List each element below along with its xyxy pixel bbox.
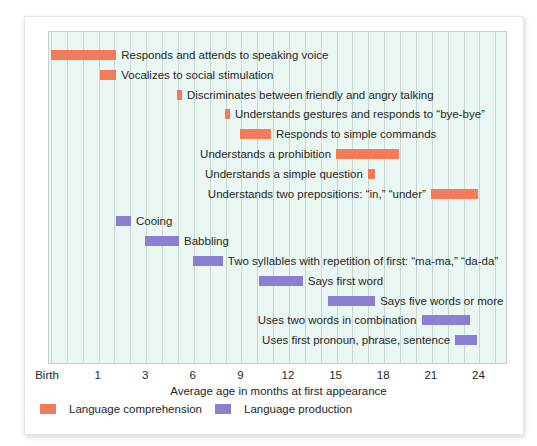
gridline <box>114 32 115 363</box>
bar-label: Understands a prohibition <box>200 148 331 160</box>
gridline <box>51 32 52 363</box>
comprehension-bar <box>336 149 399 159</box>
gridline <box>83 32 84 363</box>
x-tick-label: 3 <box>142 369 148 382</box>
production-bar <box>455 335 477 345</box>
legend-label-comprehension: Language comprehension <box>69 403 202 415</box>
production-bar <box>328 296 375 306</box>
comprehension-bar <box>368 169 375 179</box>
bar-label: Vocalizes to social stimulation <box>121 69 273 81</box>
gridline <box>99 32 100 363</box>
gridline <box>194 32 195 363</box>
production-bar <box>145 236 179 246</box>
x-tick-label: 9 <box>237 369 243 382</box>
x-tick-label: 12 <box>282 369 295 382</box>
bar-label: Says first word <box>308 275 383 287</box>
comprehension-bar <box>225 109 230 119</box>
plot-area: Responds and attends to speaking voiceVo… <box>48 31 507 364</box>
comprehension-bar <box>240 129 271 139</box>
gridline <box>178 32 179 363</box>
bar-label: Responds and attends to speaking voice <box>121 49 328 61</box>
x-tick-label: Birth <box>35 369 59 382</box>
x-tick-label: 21 <box>424 369 437 382</box>
x-axis-label: Average age in months at first appearanc… <box>0 385 537 398</box>
comprehension-bar <box>100 70 116 80</box>
bar-label: Understands gestures and responds to “by… <box>235 108 485 120</box>
bar-label: Says five words or more <box>380 295 503 307</box>
production-bar <box>116 216 131 226</box>
gridline <box>130 32 131 363</box>
x-tick-label: 6 <box>190 369 196 382</box>
legend-item-production: Language production <box>215 403 352 415</box>
bar-label: Discriminates between friendly and angry… <box>187 89 434 101</box>
legend-swatch-production <box>215 404 231 414</box>
gridline <box>146 32 147 363</box>
bar-label: Understands two prepositions: “in,” “und… <box>208 188 426 200</box>
production-bar <box>193 256 223 266</box>
bar-label: Uses first pronoun, phrase, sentence <box>262 334 450 346</box>
comprehension-bar <box>177 90 182 100</box>
x-tick-label: 15 <box>329 369 342 382</box>
x-tick-label: 18 <box>377 369 390 382</box>
production-bar <box>259 276 303 286</box>
gridline <box>479 32 480 363</box>
x-tick-label: 1 <box>94 369 100 382</box>
gridline <box>162 32 163 363</box>
bar-label: Cooing <box>136 215 172 227</box>
gridline <box>67 32 68 363</box>
bar-label: Babbling <box>184 235 229 247</box>
gridline <box>495 32 496 363</box>
comprehension-bar <box>431 189 478 199</box>
bar-label: Responds to simple commands <box>276 128 436 140</box>
bar-label: Understands a simple question <box>205 168 363 180</box>
bar-label: Two syllables with repetition of first: … <box>228 255 498 267</box>
comprehension-bar <box>51 50 116 60</box>
x-tick-label: 24 <box>472 369 485 382</box>
legend-label-production: Language production <box>244 403 352 415</box>
legend-swatch-comprehension <box>40 404 56 414</box>
legend-item-comprehension: Language comprehension <box>40 403 202 415</box>
bar-label: Uses two words in combination <box>258 314 417 326</box>
production-bar <box>422 315 470 325</box>
